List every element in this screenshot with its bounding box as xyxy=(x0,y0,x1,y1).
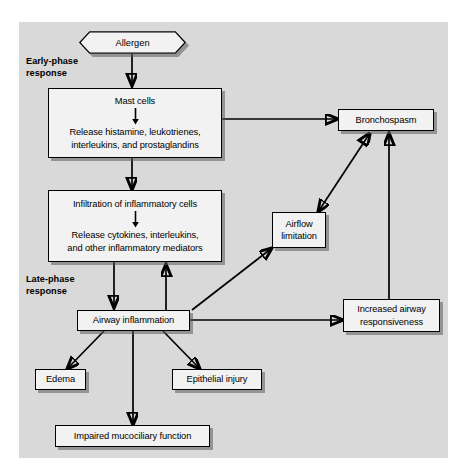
early-phase-line-1: Early-phase xyxy=(26,56,78,66)
infiltration-line-1: Infiltration of inflammatory cells xyxy=(73,198,197,210)
bronchospasm-label: Bronchospasm xyxy=(356,114,417,126)
node-increased-airway-responsiveness[interactable]: Increased airway responsiveness xyxy=(343,299,440,332)
increased-responsiveness-line-1: Increased airway xyxy=(357,303,426,315)
node-mast-cells[interactable]: Mast cells Release histamine, leukotrien… xyxy=(48,88,222,158)
late-phase-line-1: Late-phase xyxy=(26,274,75,284)
airflow-limitation-line-1: Airflow xyxy=(285,218,312,230)
mast-cells-inner-arrow-icon xyxy=(131,108,140,125)
mast-cells-line-2: Release histamine, leukotrienes, xyxy=(69,126,200,138)
infiltration-line-3: and other inflammatory mediators xyxy=(67,242,202,254)
mast-cells-line-1: Mast cells xyxy=(115,95,155,107)
node-airflow-limitation[interactable]: Airflow limitation xyxy=(272,212,326,248)
node-epithelial-injury[interactable]: Epithelial injury xyxy=(172,369,262,390)
allergen-label: Allergen xyxy=(79,31,186,54)
node-airway-inflammation[interactable]: Airway inflammation xyxy=(77,310,190,331)
infiltration-inner-arrow-icon xyxy=(131,211,140,228)
early-phase-response-label: Early-phase response xyxy=(26,56,78,80)
node-allergen[interactable]: Allergen xyxy=(79,31,186,54)
increased-responsiveness-line-2: responsiveness xyxy=(360,316,423,328)
node-bronchospasm[interactable]: Bronchospasm xyxy=(338,109,434,131)
infiltration-line-2: Release cytokines, interleukins, xyxy=(71,229,198,241)
late-phase-line-2: response xyxy=(26,286,67,296)
node-impaired-mucociliary-function[interactable]: Impaired mucociliary function xyxy=(55,425,210,447)
edge-airway-inflammation-to-epithelial-injury xyxy=(163,331,200,369)
impaired-mucociliary-label: Impaired mucociliary function xyxy=(74,430,192,442)
edge-airway-inflammation-to-edema xyxy=(67,331,104,369)
figure-canvas: Early-phase response Late-phase response… xyxy=(0,0,465,473)
edema-label: Edema xyxy=(46,373,75,385)
node-infiltration[interactable]: Infiltration of inflammatory cells Relea… xyxy=(48,190,222,262)
node-edema[interactable]: Edema xyxy=(35,369,86,390)
airflow-limitation-line-2: limitation xyxy=(281,230,317,242)
early-phase-line-2: response xyxy=(26,68,67,78)
edge-bronchospasm-airflow-limitation-bidirectional xyxy=(318,133,370,212)
mast-cells-line-3: interleukins, and prostaglandins xyxy=(71,139,199,151)
airway-inflammation-label: Airway inflammation xyxy=(93,314,174,326)
late-phase-response-label: Late-phase response xyxy=(26,274,75,298)
epithelial-injury-label: Epithelial injury xyxy=(187,373,248,385)
